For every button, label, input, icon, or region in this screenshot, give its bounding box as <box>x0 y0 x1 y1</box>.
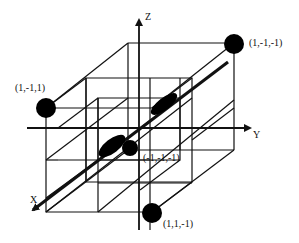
cube-lattice-diagram: Z Y X (1,-1,1) (1,-1,-1) (-1,-1,-1) (1,1… <box>0 0 299 243</box>
point-1-m1-1 <box>36 98 56 118</box>
x-axis-label: X <box>30 194 38 205</box>
lattice-grid <box>46 43 234 230</box>
point-label: (1,-1,-1) <box>249 37 282 49</box>
upper-lobe <box>148 89 181 118</box>
z-axis-label: Z <box>145 11 151 22</box>
point-1-m1-m1 <box>224 34 244 54</box>
point-1-1-m1 <box>142 203 162 223</box>
point-label: (-1,-1,-1) <box>143 152 180 164</box>
point-label: (1,-1,1) <box>15 82 45 94</box>
point-m1-m1-m1 <box>122 140 138 156</box>
point-label: (1,1,-1) <box>163 218 193 230</box>
y-axis-label: Y <box>253 129 260 140</box>
x-axis <box>33 62 228 210</box>
